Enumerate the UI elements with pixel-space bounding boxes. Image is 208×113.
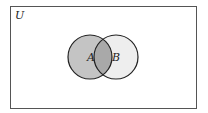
set-b-label: B: [111, 51, 120, 64]
venn-diagram: U A B: [0, 0, 208, 113]
universe-label: U: [15, 9, 25, 22]
set-a-label: A: [86, 51, 95, 64]
